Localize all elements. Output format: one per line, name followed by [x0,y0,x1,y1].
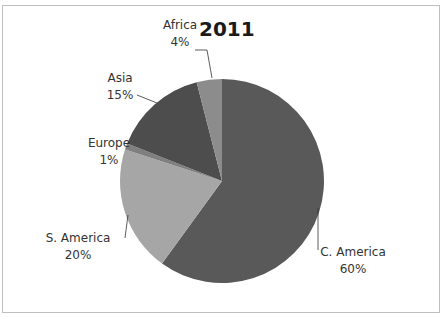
label-asia-name: Asia [100,70,140,87]
label-asia-pct: 15% [100,87,140,104]
label-s-america-name: S. America [30,230,126,247]
label-asia: Asia 15% [100,70,140,104]
label-c-america: C. America 60% [318,244,388,278]
label-c-america-name: C. America [318,244,388,261]
label-s-america: S. America 20% [30,230,126,264]
label-africa-name: Africa [160,17,200,34]
label-africa-pct: 4% [160,34,200,51]
label-europe-pct: 1% [84,152,134,169]
label-c-america-pct: 60% [318,261,388,278]
leader-line-africa [195,50,212,78]
label-europe-name: Europe [84,135,134,152]
leader-line-asia [137,95,157,103]
label-europe: Europe 1% [84,135,134,169]
label-s-america-pct: 20% [30,247,126,264]
label-africa: Africa 4% [160,17,200,51]
chart-title: 2011 [199,17,255,41]
